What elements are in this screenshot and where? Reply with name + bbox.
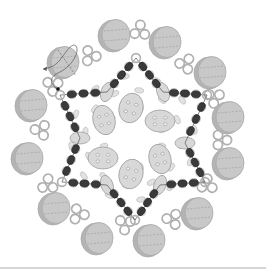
- dark-oval-bead: [70, 122, 80, 133]
- dark-oval-bead: [66, 154, 76, 165]
- button-hole: [153, 116, 157, 119]
- seed-ring: [39, 120, 49, 130]
- seed-ring: [30, 125, 40, 135]
- seed-ring-cluster: [77, 42, 102, 67]
- coin-bead-face: [153, 27, 181, 58]
- dark-oval-bead: [136, 206, 147, 217]
- dark-oval-bead: [137, 61, 148, 72]
- button-hole: [163, 116, 167, 119]
- coin-bead-face: [185, 198, 213, 229]
- button-hole: [106, 153, 110, 156]
- seed-ring: [140, 29, 150, 39]
- button-oval-bead: [145, 110, 175, 132]
- dark-oval-bead: [191, 113, 201, 124]
- button-oval-bead: [88, 147, 118, 169]
- coin-bead: [133, 225, 165, 258]
- coin-bead-face: [216, 102, 244, 133]
- coin-bead-face: [19, 90, 47, 121]
- dark-oval-bead: [62, 165, 72, 176]
- button-oval-bead: [116, 90, 147, 125]
- rice-bead: [134, 87, 144, 93]
- coin-bead-face: [15, 143, 43, 174]
- coin-bead-face: [216, 148, 244, 179]
- seed-ring: [39, 130, 49, 140]
- coin-bead: [11, 143, 43, 176]
- button-hole: [163, 123, 167, 126]
- coin-bead: [149, 27, 181, 60]
- seed-ring-cluster: [30, 120, 50, 141]
- coin-bead-face: [137, 225, 165, 256]
- seed-ring-cluster: [130, 20, 150, 39]
- seed-ring: [135, 20, 145, 30]
- button-oval-bead: [116, 156, 147, 191]
- seed-ring: [222, 135, 231, 144]
- seed-ring: [130, 29, 140, 39]
- button-hole: [96, 160, 100, 163]
- coin-bead: [194, 57, 226, 90]
- coin-bead: [38, 193, 70, 226]
- coin-bead: [181, 198, 213, 231]
- seed-ring: [120, 225, 130, 235]
- seed-ring: [213, 140, 222, 149]
- seed-ring-cluster: [115, 216, 136, 236]
- coin-bead-face: [198, 57, 226, 88]
- dark-oval-bead: [122, 206, 133, 217]
- coin-bead: [15, 90, 47, 123]
- button-hole: [96, 153, 100, 156]
- coin-bead: [98, 20, 130, 53]
- coin-bead-face: [51, 47, 79, 78]
- coin-bead: [81, 223, 113, 256]
- button-hole: [153, 123, 157, 126]
- coin-bead: [47, 47, 79, 80]
- coin-bead-face: [85, 223, 113, 254]
- dark-oval-bead: [115, 197, 126, 208]
- coin-bead-face: [102, 20, 130, 51]
- arrow-icon: [43, 67, 47, 72]
- dark-oval-bead: [196, 101, 206, 112]
- coin-bead: [212, 148, 244, 181]
- dark-oval-bead: [60, 100, 70, 111]
- bottom-divider: [0, 267, 266, 269]
- coin-bead: [212, 102, 244, 135]
- coin-bead-face: [42, 193, 70, 224]
- inner-oval-beads-layer: [70, 81, 195, 197]
- seed-ring: [115, 216, 125, 226]
- beading-diagram: [0, 0, 266, 275]
- thread-start-dot: [56, 87, 60, 91]
- button-hole: [106, 160, 110, 163]
